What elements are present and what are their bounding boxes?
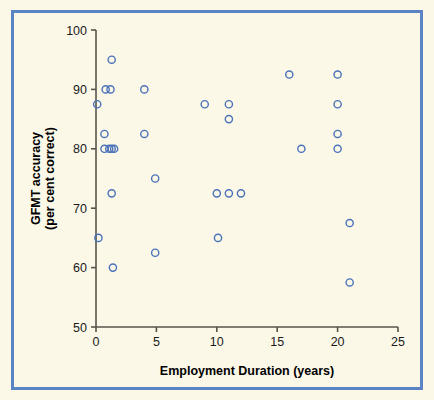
ticks-group <box>91 30 398 332</box>
x-tick-label: 20 <box>331 335 345 349</box>
axis-titles-group: Employment Duration (years)GFMT accuracy… <box>29 127 334 378</box>
data-point <box>141 86 148 93</box>
chart-svg: 50607080901000510152025 Employment Durat… <box>0 0 434 400</box>
data-point <box>214 234 221 241</box>
y-tick-label: 60 <box>73 261 87 275</box>
y-axis-title-line1: GFMT accuracy <box>29 132 43 225</box>
data-point <box>201 101 208 108</box>
tick-labels-group: 50607080901000510152025 <box>66 24 405 350</box>
data-point <box>101 130 108 137</box>
data-point <box>334 130 341 137</box>
y-tick-label: 100 <box>66 24 87 38</box>
data-point <box>107 86 114 93</box>
data-point <box>298 145 305 152</box>
data-point <box>225 116 232 123</box>
data-points-group <box>94 56 354 286</box>
data-point <box>108 190 115 197</box>
y-tick-label: 90 <box>73 83 87 97</box>
y-tick-label: 70 <box>73 202 87 216</box>
figure-container: 50607080901000510152025 Employment Durat… <box>0 0 434 400</box>
y-axis-title-line2: (per cent correct) <box>43 127 57 230</box>
data-point <box>108 56 115 63</box>
data-point <box>152 175 159 182</box>
data-point <box>334 71 341 78</box>
data-point <box>225 101 232 108</box>
y-tick-label: 80 <box>73 142 87 156</box>
data-point <box>141 130 148 137</box>
x-axis-title: Employment Duration (years) <box>160 364 334 378</box>
scatter-plot: 50607080901000510152025 Employment Durat… <box>0 0 434 400</box>
data-point <box>109 264 116 271</box>
data-point <box>225 190 232 197</box>
data-point <box>94 101 101 108</box>
x-tick-label: 0 <box>93 335 100 349</box>
data-point <box>213 190 220 197</box>
data-point <box>237 190 244 197</box>
data-point <box>346 279 353 286</box>
data-point <box>286 71 293 78</box>
x-tick-label: 5 <box>153 335 160 349</box>
data-point <box>346 219 353 226</box>
x-tick-label: 15 <box>270 335 284 349</box>
y-tick-label: 50 <box>73 321 87 335</box>
x-tick-label: 10 <box>210 335 224 349</box>
x-tick-label: 25 <box>391 335 405 349</box>
data-point <box>152 249 159 256</box>
data-point <box>334 101 341 108</box>
data-point <box>334 145 341 152</box>
